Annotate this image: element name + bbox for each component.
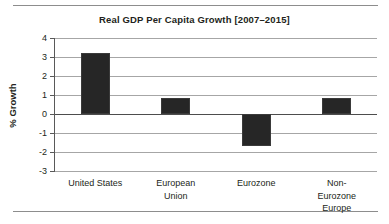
y-axis-tick [50,114,55,115]
chart-page: Real GDP Per Capita Growth [2007–2015] %… [0,0,389,224]
y-axis-tick-label: -1 [39,128,47,138]
gridline [55,152,377,153]
x-axis-tick-label: European Union [156,177,195,202]
y-axis-tick-label: 1 [42,90,47,100]
zero-gridline [55,114,377,115]
y-axis-tick [50,95,55,96]
y-axis-tick [50,152,55,153]
bar-chart-figure: Real GDP Per Capita Growth [2007–2015] %… [0,8,389,206]
x-axis-tick-label: Non-Eurozone Europe [317,177,357,215]
y-axis-tick [50,38,55,39]
chart-title: Real GDP Per Capita Growth [2007–2015] [0,14,389,25]
y-axis-tick-label: 2 [42,71,47,81]
y-axis-tick-label: -2 [39,147,47,157]
x-axis-tick-label: United States [68,177,122,190]
gridline [55,38,377,39]
y-axis-tick [50,133,55,134]
plot-area: 43210-1-2-3United StatesEuropean UnionEu… [55,38,377,171]
y-axis-tick [50,171,55,172]
y-axis-tick [50,57,55,58]
gridline [55,171,377,172]
bar [81,53,110,114]
bar [322,98,351,114]
y-axis-tick [50,76,55,77]
bar [161,98,190,114]
y-axis-tick-label: 4 [42,33,47,43]
y-axis-label: % Growth [7,71,18,141]
bar [242,114,271,146]
y-axis-tick-label: 0 [42,109,47,119]
y-axis-tick-label: 3 [42,52,47,62]
gridline [55,133,377,134]
y-axis-tick-label: -3 [39,166,47,176]
top-divider-rule [13,5,378,6]
x-axis-tick-label: Eurozone [237,177,276,190]
